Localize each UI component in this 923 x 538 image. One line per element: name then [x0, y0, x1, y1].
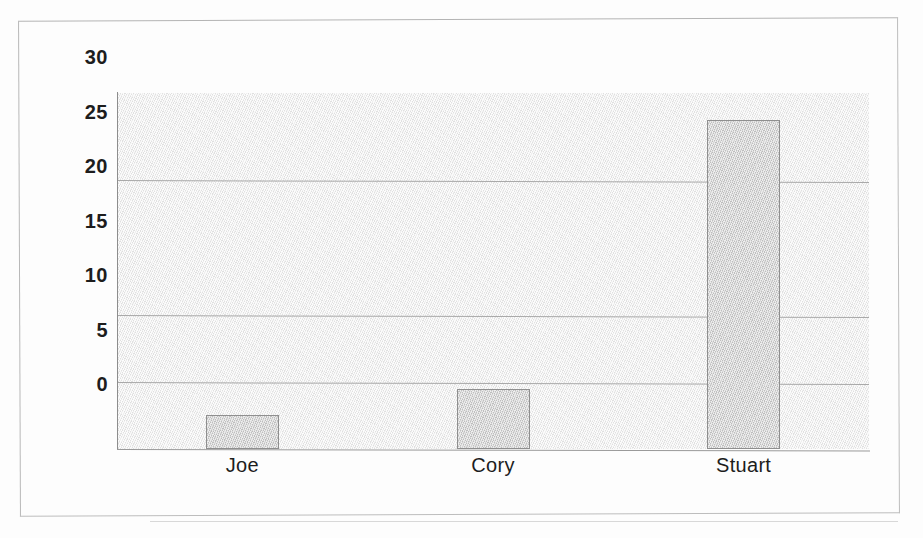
bar-cory[interactable]	[457, 389, 530, 449]
y-tick-label-10: 10	[30, 265, 108, 285]
y-tick-label-15: 15	[30, 211, 108, 231]
y-axis-line	[117, 92, 118, 450]
bar-joe[interactable]	[206, 415, 279, 449]
y-tick-label-0: 0	[30, 374, 108, 394]
bar-texture	[708, 121, 779, 448]
bar-texture	[458, 390, 529, 448]
scanned-page: 302520151050 JoeCoryStuart	[0, 0, 923, 538]
x-axis-line	[117, 449, 870, 452]
bar-stuart[interactable]	[707, 120, 780, 449]
y-axis-tick-labels: 302520151050	[20, 0, 108, 538]
bar-chart: 302520151050 JoeCoryStuart	[0, 0, 923, 538]
bar-texture	[207, 416, 278, 448]
x-tick-label-joe: Joe	[117, 455, 368, 475]
y-tick-label-25: 25	[30, 102, 108, 122]
x-tick-label-stuart: Stuart	[618, 455, 869, 475]
y-tick-label-20: 20	[30, 156, 108, 176]
x-tick-label-cory: Cory	[368, 455, 619, 475]
y-tick-label-30: 30	[30, 47, 108, 67]
y-tick-label-5: 5	[30, 320, 108, 340]
